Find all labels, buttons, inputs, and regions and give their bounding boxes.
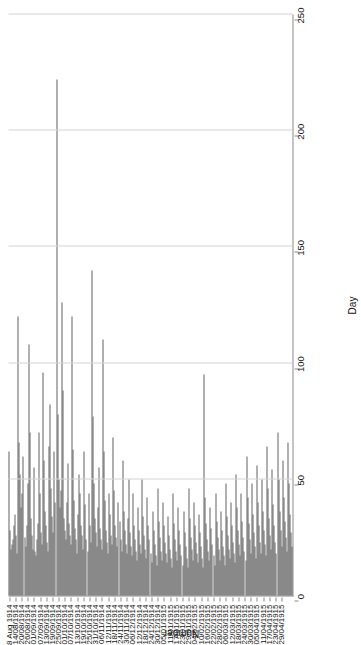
number-tick-label: 150 [294, 229, 305, 265]
bar [291, 546, 292, 595]
day-tick [52, 597, 53, 601]
day-tick [170, 597, 171, 601]
day-tick [194, 597, 195, 601]
day-tick [9, 597, 10, 601]
day-tick [219, 597, 220, 601]
day-tick [27, 597, 28, 601]
rotated-figure: 050100150200250 4-8 Aug 191414/08/191420… [0, 0, 361, 645]
day-tick [139, 597, 140, 601]
day-tick [46, 597, 47, 601]
day-tick [244, 597, 245, 601]
day-tick [64, 597, 65, 601]
day-tick [157, 597, 158, 601]
day-tick [188, 597, 189, 601]
day-tick [70, 597, 71, 601]
day-tick [151, 597, 152, 601]
day-tick [108, 597, 109, 601]
number-tick-label: 250 [294, 0, 305, 33]
gridline [8, 478, 292, 479]
day-tick [213, 597, 214, 601]
day-tick [281, 597, 282, 601]
day-tick [207, 597, 208, 601]
day-tick [114, 597, 115, 601]
day-tick [120, 597, 121, 601]
number-tick-label: 200 [294, 113, 305, 149]
number-tick-label: 0 [294, 578, 305, 614]
day-tick [89, 597, 90, 601]
day-tick [232, 597, 233, 601]
day-tick [77, 597, 78, 601]
day-tick [132, 597, 133, 601]
gridline [8, 129, 292, 130]
day-tick [126, 597, 127, 601]
day-tick [176, 597, 177, 601]
y-axis-title: Number [163, 628, 199, 639]
day-tick [21, 597, 22, 601]
chart-figure: 050100150200250 4-8 Aug 191414/08/191420… [0, 0, 361, 645]
day-tick [95, 597, 96, 601]
day-tick [238, 597, 239, 601]
day-tick [256, 597, 257, 601]
day-tick [15, 597, 16, 601]
number-tick-label: 50 [294, 462, 305, 498]
day-tick [269, 597, 270, 601]
day-tick [182, 597, 183, 601]
day-tick [201, 597, 202, 601]
day-tick [40, 597, 41, 601]
day-tick [275, 597, 276, 601]
plot-area [8, 14, 293, 596]
day-tick [250, 597, 251, 601]
day-tick [83, 597, 84, 601]
bar-series [8, 14, 292, 595]
number-tick-label: 100 [294, 346, 305, 382]
day-tick [33, 597, 34, 601]
gridline [8, 13, 292, 14]
day-tick [58, 597, 59, 601]
gridline [8, 362, 292, 363]
day-tick [163, 597, 164, 601]
day-tick [145, 597, 146, 601]
x-axis-title: Day [346, 14, 357, 596]
day-tick [225, 597, 226, 601]
day-tick [101, 597, 102, 601]
day-tick [263, 597, 264, 601]
gridline [8, 245, 292, 246]
